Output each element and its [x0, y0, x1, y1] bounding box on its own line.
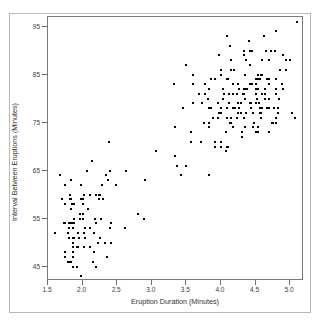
- data-point: [97, 242, 99, 244]
- data-point: [94, 218, 96, 220]
- data-point: [185, 165, 187, 167]
- data-point: [277, 112, 279, 114]
- data-point: [226, 107, 228, 109]
- data-point: [245, 88, 247, 90]
- x-axis-title: Eruption Duration (Minutes): [47, 297, 303, 306]
- data-point: [83, 194, 85, 196]
- data-point: [214, 141, 216, 143]
- data-point: [264, 88, 266, 90]
- data-point: [68, 227, 70, 229]
- data-point: [227, 78, 229, 80]
- data-point: [244, 126, 246, 128]
- data-point: [237, 83, 239, 85]
- data-point: [185, 64, 187, 66]
- data-point: [226, 117, 228, 119]
- data-point: [222, 88, 224, 90]
- data-point: [226, 146, 228, 148]
- data-point: [69, 198, 71, 200]
- data-point: [265, 50, 267, 52]
- data-point: [155, 150, 157, 152]
- data-point: [238, 107, 240, 109]
- x-tick-label: 5.0: [285, 286, 294, 293]
- data-point: [228, 93, 230, 95]
- y-tick-label: 55: [33, 214, 40, 221]
- data-point: [204, 83, 206, 85]
- data-point: [87, 208, 89, 210]
- data-point: [190, 131, 192, 133]
- data-point: [272, 122, 274, 124]
- data-point: [208, 122, 210, 124]
- data-point: [72, 227, 74, 229]
- data-point: [110, 242, 112, 244]
- data-point: [252, 112, 254, 114]
- data-point: [230, 117, 232, 119]
- data-point: [208, 88, 210, 90]
- y-tick-label: 45: [33, 262, 40, 269]
- data-point: [274, 50, 276, 52]
- data-point: [91, 160, 93, 162]
- data-point: [261, 59, 263, 61]
- data-point: [182, 107, 184, 109]
- data-point: [296, 21, 298, 23]
- data-point: [93, 232, 95, 234]
- data-point: [222, 98, 224, 100]
- data-point: [92, 261, 94, 263]
- data-point: [251, 83, 253, 85]
- data-point: [80, 198, 82, 200]
- data-point: [255, 131, 257, 133]
- data-point: [100, 218, 102, 220]
- data-point: [268, 78, 270, 80]
- data-point: [241, 136, 243, 138]
- data-point: [99, 194, 101, 196]
- data-point: [234, 107, 236, 109]
- data-point: [54, 232, 56, 234]
- data-point: [220, 69, 222, 71]
- data-point: [244, 74, 246, 76]
- data-point: [218, 54, 220, 56]
- data-point: [125, 170, 127, 172]
- data-point: [220, 141, 222, 143]
- data-point: [261, 107, 263, 109]
- data-point: [241, 131, 243, 133]
- x-tick-mark: [116, 280, 117, 285]
- data-point: [80, 275, 82, 277]
- data-point: [82, 203, 84, 205]
- data-point: [223, 93, 225, 95]
- data-point: [70, 179, 72, 181]
- data-point: [232, 107, 234, 109]
- data-point: [257, 88, 259, 90]
- data-point: [64, 203, 66, 205]
- data-point: [218, 112, 220, 114]
- data-point: [285, 69, 287, 71]
- data-point: [210, 78, 212, 80]
- y-axis: 958575655545 Interval Between Eruptions …: [0, 0, 47, 324]
- data-point: [255, 83, 257, 85]
- data-point: [232, 93, 234, 95]
- data-point: [180, 174, 182, 176]
- data-point: [248, 40, 250, 42]
- data-point: [275, 30, 277, 32]
- data-point: [240, 102, 242, 104]
- x-tick-label: 3.0: [146, 286, 155, 293]
- data-points-layer: [48, 17, 302, 279]
- data-point: [110, 222, 112, 224]
- data-point: [260, 112, 262, 114]
- data-point: [69, 194, 71, 196]
- data-point: [289, 59, 291, 61]
- data-point: [203, 122, 205, 124]
- data-point: [243, 93, 245, 95]
- data-point: [220, 146, 222, 148]
- data-point: [252, 126, 254, 128]
- data-point: [176, 165, 178, 167]
- data-point: [198, 93, 200, 95]
- data-point: [253, 122, 255, 124]
- data-point: [124, 227, 126, 229]
- data-point: [270, 50, 272, 52]
- data-point: [73, 218, 75, 220]
- data-point: [278, 98, 280, 100]
- data-point: [93, 251, 95, 253]
- data-point: [143, 218, 145, 220]
- data-point: [275, 122, 277, 124]
- data-point: [220, 74, 222, 76]
- data-point: [282, 88, 284, 90]
